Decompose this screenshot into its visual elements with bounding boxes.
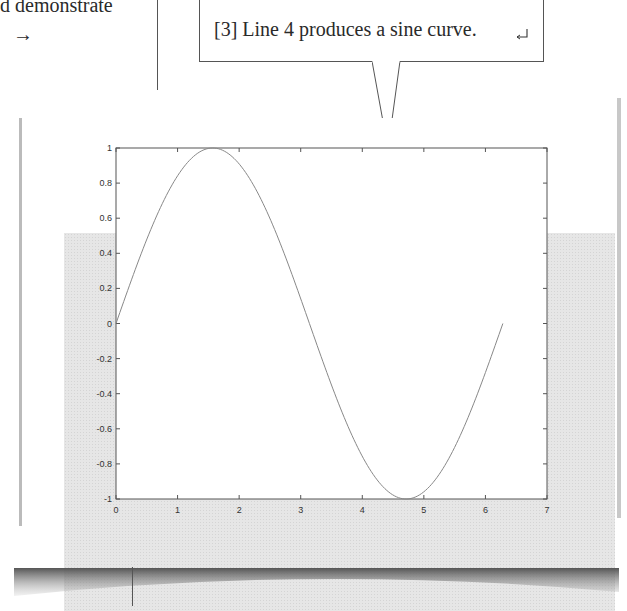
svg-text:-0.4: -0.4 xyxy=(96,389,112,399)
svg-text:0: 0 xyxy=(107,319,112,329)
svg-text:1: 1 xyxy=(175,505,180,515)
svg-text:1: 1 xyxy=(107,143,112,153)
svg-text:5: 5 xyxy=(421,505,426,515)
svg-text:2: 2 xyxy=(237,505,242,515)
svg-text:0: 0 xyxy=(113,505,118,515)
svg-text:3: 3 xyxy=(298,505,303,515)
svg-text:6: 6 xyxy=(483,505,488,515)
card-shadow xyxy=(14,568,619,598)
svg-text:-0.8: -0.8 xyxy=(96,459,112,469)
svg-text:0.8: 0.8 xyxy=(99,178,112,188)
svg-text:0.2: 0.2 xyxy=(99,283,112,293)
svg-text:7: 7 xyxy=(544,505,549,515)
svg-text:0.4: 0.4 xyxy=(99,248,112,258)
svg-text:0.6: 0.6 xyxy=(99,213,112,223)
svg-text:-0.6: -0.6 xyxy=(96,424,112,434)
svg-text:-0.2: -0.2 xyxy=(96,354,112,364)
axes-background xyxy=(116,148,547,499)
svg-text:-1: -1 xyxy=(104,494,112,504)
svg-text:4: 4 xyxy=(360,505,365,515)
column-rule-bottom xyxy=(132,567,133,606)
